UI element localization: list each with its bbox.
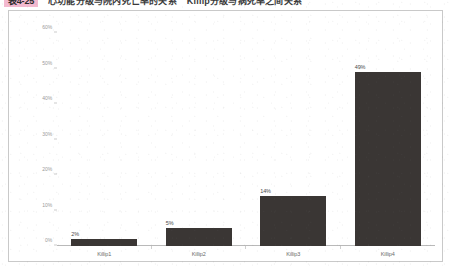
- bar-group: 2%Killip1: [57, 33, 152, 246]
- header-subtitle: Killip分级与病死率之间关系: [187, 0, 302, 7]
- table-number-tag: 表4-25: [4, 0, 38, 7]
- bar-group: 49%Killip4: [341, 33, 436, 246]
- y-axis-tick-label: 60%: [42, 24, 52, 30]
- y-axis-tick-label: 10%: [42, 202, 52, 208]
- x-axis-tick-label: Killip1: [97, 251, 111, 257]
- x-axis-tick-mark: [340, 246, 341, 249]
- bar-value-label: 2%: [71, 231, 79, 237]
- x-axis-tick-label: Killip4: [381, 251, 395, 257]
- bar[interactable]: 2%: [71, 239, 137, 246]
- y-axis-tick-label: 0%: [45, 237, 52, 243]
- y-axis-tick-label: 20%: [42, 166, 52, 172]
- x-axis-tick-mark: [245, 246, 246, 249]
- y-axis-tick-label: 50%: [42, 60, 52, 66]
- x-axis-tick-label: Killip2: [192, 251, 206, 257]
- document-header: 表4-25 心功能分级与院内死亡率的关系 Killip分级与病死率之间关系: [0, 0, 451, 8]
- x-axis-tick-mark: [151, 246, 152, 249]
- bar-group: 5%Killip2: [152, 33, 247, 246]
- y-axis-tick-label: 30%: [42, 131, 52, 137]
- y-axis-tick-label: 40%: [42, 95, 52, 101]
- x-axis-tick-label: Killip3: [286, 251, 300, 257]
- chart-frame: 0%10%20%30%40%50%60% 2%Killip15%Killip21…: [8, 10, 443, 262]
- bar-series: 2%Killip15%Killip214%Killip349%Killip4: [57, 33, 435, 246]
- bar-value-label: 14%: [260, 188, 271, 194]
- bar-value-label: 49%: [355, 64, 366, 70]
- bar[interactable]: 5%: [166, 228, 232, 246]
- bar[interactable]: 14%: [260, 196, 326, 246]
- bar-group: 14%Killip3: [246, 33, 341, 246]
- plot-area: 0%10%20%30%40%50%60% 2%Killip15%Killip21…: [57, 33, 435, 246]
- bar[interactable]: 49%: [355, 72, 421, 246]
- header-title: 心功能分级与院内死亡率的关系: [48, 0, 177, 7]
- bar-value-label: 5%: [166, 220, 174, 226]
